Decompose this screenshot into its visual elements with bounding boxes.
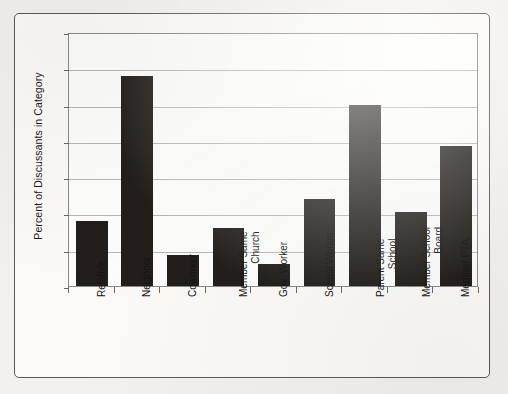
x-tick-label: Coworker	[187, 254, 199, 297]
x-tick-label: Parent SameSchool	[375, 239, 398, 297]
y-tick-mark	[64, 143, 69, 144]
x-tick-label: Neighbor	[141, 256, 153, 297]
y-tick-mark	[64, 107, 69, 108]
y-tick-mark	[64, 215, 69, 216]
y-axis-title: Percent of Discussants in Category	[32, 56, 44, 256]
x-tick-mark	[296, 287, 297, 293]
x-tick-mark	[68, 287, 69, 293]
x-tick-mark	[478, 287, 479, 293]
x-tick-label: Member PTA	[460, 239, 472, 297]
x-tick-mark	[205, 287, 206, 293]
x-tick-label: Member SchoolBoard	[421, 227, 444, 297]
gridline	[69, 70, 477, 71]
y-tick-mark	[64, 179, 69, 180]
plot-area: 010203040506070	[68, 33, 478, 287]
x-tick-label: Member SameChurch	[238, 231, 261, 297]
bar-chart: Percent of Discussants in Category 01020…	[0, 0, 508, 394]
x-tick-label: Gov. Worker	[278, 242, 290, 297]
x-tick-mark	[341, 287, 342, 293]
x-tick-mark	[159, 287, 160, 293]
bar	[121, 76, 153, 286]
y-tick-mark	[64, 252, 69, 253]
x-tick-mark	[114, 287, 115, 293]
x-tick-label: School Worker	[324, 232, 336, 297]
x-tick-label: Relative	[96, 261, 108, 297]
y-tick-mark	[64, 70, 69, 71]
y-tick-mark	[64, 34, 69, 35]
